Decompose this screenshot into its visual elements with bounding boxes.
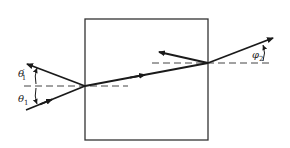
- reflected-ray-right: [159, 52, 208, 63]
- theta1-label: θ1: [18, 93, 29, 107]
- refraction-diagram: θ′1 θ1 φ2: [0, 0, 290, 148]
- theta1-prime-arc: [35, 68, 37, 84]
- theta1-arc: [35, 88, 37, 104]
- phi2-label: φ2: [252, 49, 263, 63]
- glass-slab: [85, 19, 208, 140]
- refracted-ray-inside: [85, 63, 208, 86]
- incident-ray: [26, 86, 85, 110]
- incident-arrow-icon: [40, 99, 52, 104]
- inside-arrow-icon: [130, 75, 145, 78]
- theta1-prime-label: θ′1: [18, 68, 26, 82]
